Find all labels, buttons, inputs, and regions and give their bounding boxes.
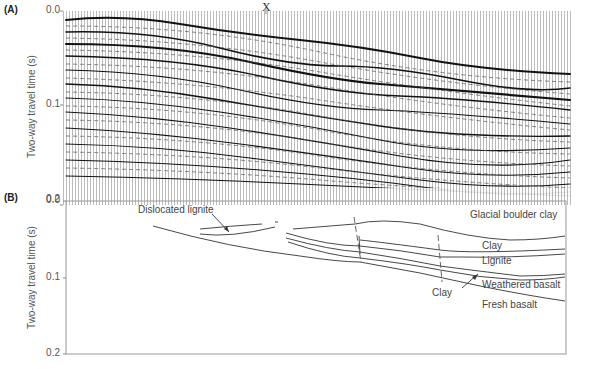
annotation-clay-arrow: Clay [432,287,452,298]
layer-clay: Clay [482,240,502,251]
layer-fresh-basalt: Fresh basalt [482,299,537,310]
panel-b-tick-2: 0.2 [36,347,60,358]
annotation-dislocated-lignite: Dislocated lignite [138,204,214,215]
layer-lignite: Lignite [482,255,511,266]
panel-b-tick-0: 0.0 [36,194,60,205]
layer-glacial-boulder-clay: Glacial boulder clay [470,209,557,220]
panel-b-label: (B) [4,192,18,203]
panel-b-y-axis-label: Two-way travel time (s) [26,218,37,338]
arrow-head-icon [472,274,478,280]
layer-weathered-basalt: Weathered basalt [482,279,560,290]
panel-b-tick-1: 0.1 [36,271,60,282]
seismic-section [0,0,600,369]
